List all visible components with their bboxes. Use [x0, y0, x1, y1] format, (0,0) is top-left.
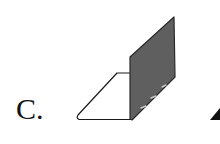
base-panel [77, 73, 131, 120]
next-option-shape [210, 108, 220, 120]
upright-panel [130, 17, 175, 120]
folded-card-figure [0, 0, 220, 144]
